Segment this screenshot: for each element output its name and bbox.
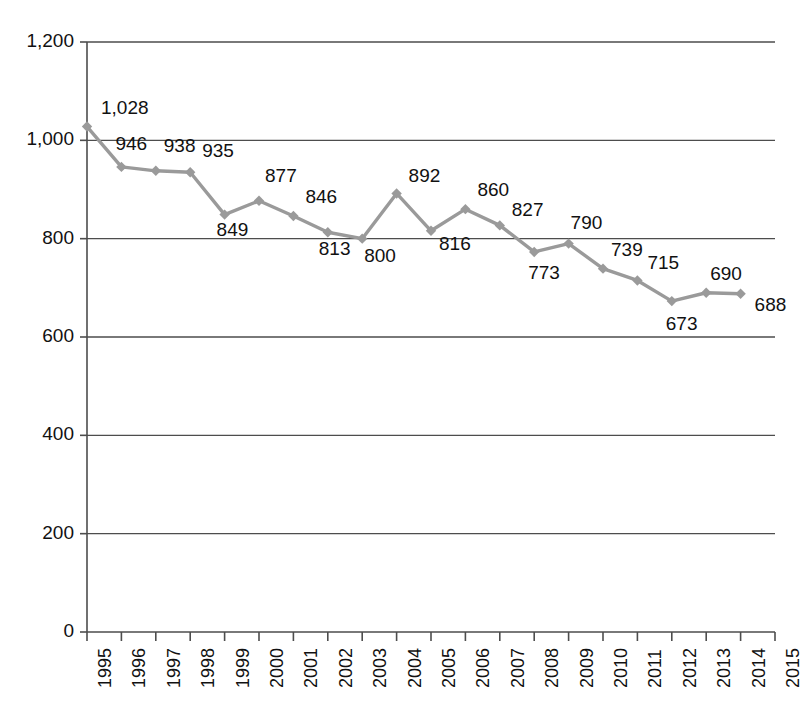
x-axis-tick-label: 2006 — [473, 648, 494, 688]
x-axis-tick-label: 1997 — [164, 648, 185, 688]
data-point-marker — [701, 288, 711, 298]
data-point-label: 946 — [115, 133, 147, 155]
x-axis-tick-label: 1999 — [233, 648, 254, 688]
data-point-label: 673 — [666, 313, 698, 335]
y-axis-tick-label: 600 — [0, 325, 74, 347]
x-axis-tick-label: 2010 — [611, 648, 632, 688]
y-axis-tick-label: 0 — [0, 620, 74, 642]
data-point-marker — [735, 289, 745, 299]
x-axis-tick-label: 2000 — [267, 648, 288, 688]
data-point-label: 800 — [364, 245, 396, 267]
x-axis-tick-label: 2014 — [749, 648, 770, 688]
data-point-label: 892 — [409, 165, 441, 187]
x-axis-tick-label: 1995 — [95, 648, 116, 688]
data-point-marker — [288, 211, 298, 221]
y-axis-tick-label: 1,000 — [0, 128, 74, 150]
data-point-label: 773 — [528, 262, 560, 284]
line-chart: 02004006008001,0001,200 1995199619971998… — [0, 0, 808, 716]
data-point-label: 790 — [571, 212, 603, 234]
y-axis-tick-label: 1,200 — [0, 30, 74, 52]
x-axis-tick-label: 2015 — [783, 648, 804, 688]
data-point-marker — [254, 196, 264, 206]
x-axis-tick-label: 2012 — [680, 648, 701, 688]
data-point-label: 816 — [439, 233, 471, 255]
data-point-marker — [151, 166, 161, 176]
data-point-label: 813 — [319, 238, 351, 260]
data-point-label: 877 — [265, 165, 297, 187]
gridlines — [87, 42, 775, 632]
x-axis-tick-label: 2011 — [645, 649, 666, 688]
data-point-label: 690 — [710, 263, 742, 285]
x-axis-tick-label: 1998 — [198, 648, 219, 688]
data-point-label: 849 — [217, 219, 249, 241]
data-point-label: 715 — [647, 252, 679, 274]
data-point-label: 739 — [611, 239, 643, 261]
x-axis-tick-label: 2003 — [370, 648, 391, 688]
x-axis-tick-label: 2013 — [714, 648, 735, 688]
data-point-label: 935 — [202, 140, 234, 162]
x-axis-tick-label: 2008 — [542, 648, 563, 688]
data-point-marker — [323, 227, 333, 237]
y-axis-tick-label: 400 — [0, 423, 74, 445]
data-point-label: 860 — [477, 179, 509, 201]
y-axis-tick-label: 200 — [0, 522, 74, 544]
data-point-label: 1,028 — [101, 97, 149, 119]
data-point-label: 827 — [512, 199, 544, 221]
x-axis-ticks — [87, 632, 775, 641]
x-axis-tick-label: 2002 — [336, 648, 357, 688]
data-point-label: 688 — [755, 294, 787, 316]
data-point-label: 938 — [164, 135, 196, 157]
x-axis-tick-label: 1996 — [129, 648, 150, 688]
x-axis-tick-label: 2001 — [301, 648, 322, 688]
y-axis-tick-label: 800 — [0, 227, 74, 249]
data-point-label: 846 — [305, 186, 337, 208]
x-axis-tick-label: 2004 — [405, 648, 426, 688]
x-axis-tick-label: 2007 — [508, 648, 529, 688]
x-axis-tick-label: 2005 — [439, 648, 460, 688]
x-axis-tick-label: 2009 — [577, 648, 598, 688]
